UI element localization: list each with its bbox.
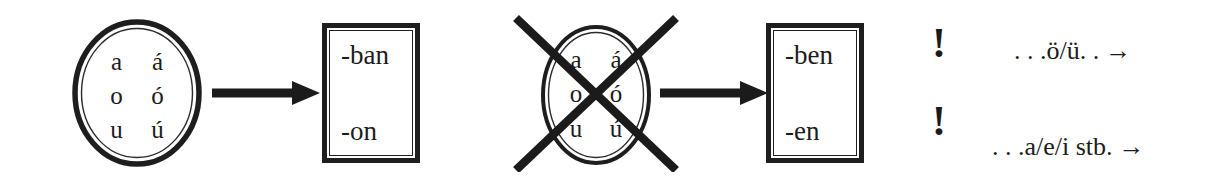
exclamation-icon: ! [932, 100, 946, 142]
suffix-label-bottom: -on [341, 117, 412, 145]
suffix-label-top: -ben [785, 41, 856, 69]
arrow-right-icon: → [1113, 132, 1145, 161]
exclamation-icon: ! [932, 22, 946, 64]
suffix-box-ban-on: -ban -on [322, 23, 420, 163]
suffix-label-bottom: -en [785, 117, 856, 145]
vowel-set-back-vowels-crossed: a á o ó u ú [512, 12, 680, 172]
note-text-label: . . .a/e/i stb. [992, 132, 1113, 161]
note-text-label: . . .ö/ü. . [1014, 36, 1099, 65]
vowel-set-back-vowels-valid: a á o ó u ú [70, 18, 204, 168]
suffix-label-top: -ban [341, 41, 412, 69]
arrow-right-icon: → [1099, 36, 1131, 65]
arrow-right-icon [212, 78, 322, 108]
suffix-box-ben-en: -ben -en [766, 23, 864, 163]
ellipse-outline-double-crossed [512, 12, 680, 172]
note-front-unrounded: . . .a/e/i stb.→ [992, 134, 1145, 160]
arrow-right-icon [660, 78, 770, 108]
diagram-canvas: a á o ó u ú -ban -on a á [0, 0, 1223, 182]
note-front-rounded: . . .ö/ü. .→ [1014, 38, 1131, 64]
ellipse-outline-double [70, 18, 204, 168]
